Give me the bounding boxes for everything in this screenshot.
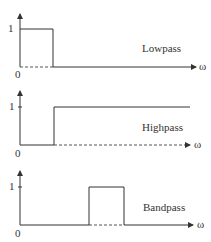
highpass-panel	[18, 91, 190, 145]
bandpass-response	[89, 187, 124, 225]
bandpass-tick-one: 1	[9, 181, 15, 192]
bandpass-label: Bandpass	[143, 202, 185, 213]
lowpass-origin: 0	[15, 69, 21, 80]
lowpass-panel	[20, 14, 196, 67]
bandpass-omega: ω	[197, 219, 204, 230]
highpass-tick-one: 1	[9, 101, 15, 112]
lowpass-tick-one: 1	[8, 23, 14, 34]
highpass-omega: ω	[194, 139, 201, 150]
lowpass-omega: ω	[199, 61, 206, 72]
bandpass-origin: 0	[15, 228, 21, 239]
lowpass-label: Lowpass	[142, 43, 181, 54]
highpass-origin: 0	[15, 148, 21, 159]
highpass-label: Highpass	[142, 122, 183, 133]
bandpass-panel	[18, 171, 193, 225]
lowpass-response	[20, 29, 53, 67]
